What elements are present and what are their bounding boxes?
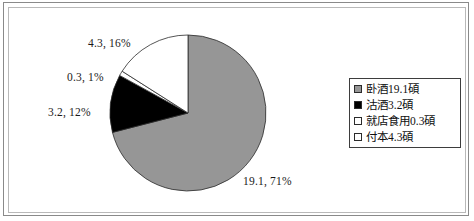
plot-area: 4.3, 16% 0.3, 1% 3.2, 12% 19.1, 71% 卧酒19… [10,9,464,211]
legend-swatch-icon-0 [354,85,362,93]
data-label-upper-left: 0.3, 1% [67,71,104,83]
legend-label-3: 付本4.3碩 [366,129,413,145]
data-label-bottom-right: 19.1, 71% [243,175,292,187]
legend-swatch-icon-1 [354,101,362,109]
pie-chart [108,33,268,193]
legend-item-3[interactable]: 付本4.3碩 [354,129,457,145]
chart-page: 4.3, 16% 0.3, 1% 3.2, 12% 19.1, 71% 卧酒19… [0,0,474,221]
legend-item-2[interactable]: 就店食用0.3碩 [354,113,457,129]
data-label-top: 4.3, 16% [88,37,131,49]
legend-label-2: 就店食用0.3碩 [366,113,435,129]
legend-swatch-icon-2 [354,117,362,125]
legend-label-0: 卧酒19.1碩 [366,81,419,97]
pie-svg [108,33,268,193]
legend-item-1[interactable]: 沽酒3.2碩 [354,97,457,113]
chart-legend: 卧酒19.1碩 沽酒3.2碩 就店食用0.3碩 付本4.3碩 [349,78,461,148]
legend-swatch-icon-3 [354,133,362,141]
data-label-left: 3.2, 12% [48,106,91,118]
legend-label-1: 沽酒3.2碩 [366,97,413,113]
legend-item-0[interactable]: 卧酒19.1碩 [354,81,457,97]
